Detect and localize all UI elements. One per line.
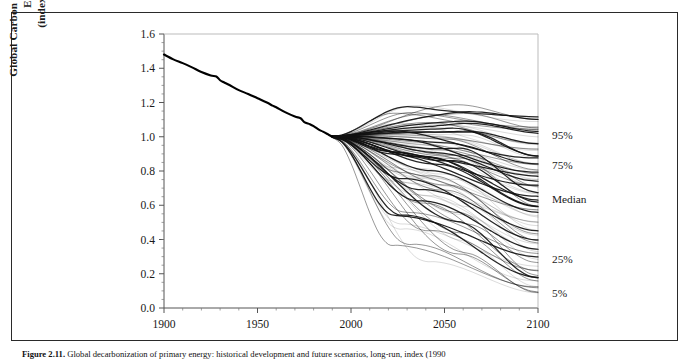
y-tick-label: 0.0 (141, 302, 156, 315)
y-tick-label: 0.8 (141, 165, 156, 178)
caption-text: Global decarbonization of primary energy… (67, 349, 445, 359)
figure-border: Global Carbon Dioxide Intensity of Energ… (11, 12, 678, 341)
figure-caption: Figure 2.11. Global decarbonization of p… (22, 349, 682, 360)
percentile-label: 75% (552, 159, 573, 171)
y-tick-label: 0.2 (141, 268, 156, 281)
y-tick-label: 1.4 (141, 62, 156, 75)
x-tick-label: 1900 (152, 318, 175, 331)
chart-svg: 0.00.20.40.60.81.01.21.41.61900195020002… (12, 13, 679, 342)
y-tick-label: 1.0 (141, 131, 156, 144)
figure-page: Global Carbon Dioxide Intensity of Energ… (0, 0, 691, 362)
percentile-label: 95% (552, 129, 573, 141)
y-tick-label: 0.6 (141, 199, 156, 212)
y-tick-label: 1.2 (141, 97, 156, 110)
y-tick-label: 1.6 (141, 28, 156, 41)
caption-label: Figure 2.11. (22, 349, 65, 359)
percentile-label: 25% (552, 253, 573, 265)
historical-line (164, 55, 332, 137)
x-tick-label: 2100 (526, 318, 549, 331)
percentile-label: 5% (552, 287, 568, 299)
percentile-label: Median (552, 193, 587, 205)
x-tick-label: 2000 (339, 318, 362, 331)
plot-area: Global Carbon Dioxide Intensity of Energ… (12, 13, 679, 342)
y-tick-label: 0.4 (141, 234, 156, 247)
x-tick-label: 1950 (246, 318, 269, 331)
x-tick-label: 2050 (433, 318, 456, 331)
